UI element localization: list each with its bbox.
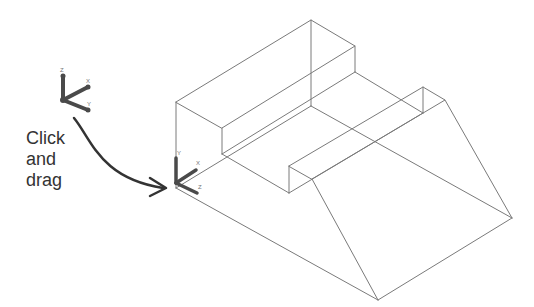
ucs-icon-moved[interactable] (176, 158, 197, 193)
drawing-canvas: Z X Y Y X Z (0, 0, 534, 307)
ucs-moved-label-lower-right: Z (198, 184, 202, 190)
ucs-moved-label-up: Y (177, 150, 181, 156)
drag-arrow-icon (74, 118, 166, 196)
instruction-caption: Click and drag (26, 128, 65, 191)
caption-line-drag: drag (26, 170, 65, 191)
ucs-original-label-upper-right: X (86, 78, 90, 84)
ucs-original-label-lower-right: Y (87, 101, 91, 107)
caption-line-and: and (26, 149, 65, 170)
wireframe-solid (176, 20, 512, 300)
caption-line-click: Click (26, 128, 65, 149)
ucs-moved-label-upper-right: X (196, 160, 200, 166)
ucs-original-label-up: Z (60, 67, 64, 73)
